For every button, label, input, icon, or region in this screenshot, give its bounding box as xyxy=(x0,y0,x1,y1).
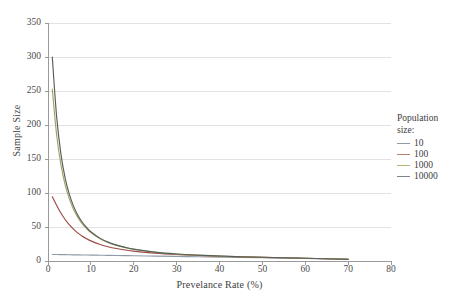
legend-swatch-icon xyxy=(397,176,410,177)
series-line-100 xyxy=(52,197,348,260)
legend-item-label: 1000 xyxy=(414,161,433,171)
tick-marks xyxy=(45,23,392,265)
series-line-1000 xyxy=(52,89,348,259)
legend-title: Population size: xyxy=(397,113,467,136)
chart-container: Sample Size 050100150200250300350 010203… xyxy=(0,0,471,303)
legend-swatch-icon xyxy=(397,165,410,166)
legend-item-10000: 10000 xyxy=(397,171,471,182)
legend-item-10: 10 xyxy=(397,138,471,149)
axis-lines xyxy=(48,23,391,261)
legend-title-line-1: Population xyxy=(397,113,467,125)
legend-swatch-icon xyxy=(397,143,410,144)
legend-item-label: 10 xyxy=(414,139,424,149)
series-line-10000 xyxy=(52,57,348,259)
legend-item-label: 100 xyxy=(414,150,428,160)
legend-item-label: 10000 xyxy=(414,172,438,182)
legend-item-1000: 1000 xyxy=(397,160,471,171)
x-axis-title-text: Prevelance Rate (%) xyxy=(177,279,263,290)
gridlines xyxy=(48,23,391,261)
legend-swatch-icon xyxy=(397,154,410,155)
legend: Population size: 10100100010000 xyxy=(397,113,471,182)
legend-title-line-2: size: xyxy=(397,125,467,137)
legend-items: 10100100010000 xyxy=(397,138,471,182)
data-series xyxy=(52,57,348,259)
x-axis-title: Prevelance Rate (%) xyxy=(48,279,391,290)
legend-item-100: 100 xyxy=(397,149,471,160)
